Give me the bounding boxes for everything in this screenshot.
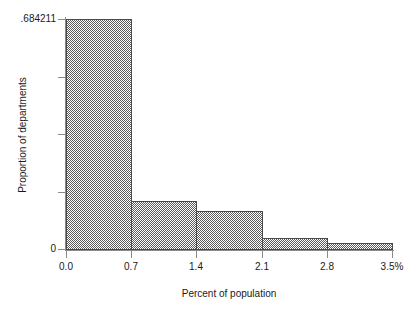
y-axis-tick-1: [58, 192, 65, 193]
y-axis-tick-label-top: .684211: [0, 14, 56, 24]
histogram-bar-2: [196, 211, 263, 250]
histogram-bar-1: [131, 201, 197, 250]
histogram-bar-0: [66, 19, 132, 250]
x-axis-tick-3: [262, 251, 263, 258]
x-axis-tick-1: [131, 251, 132, 258]
x-axis-tick-label-4: 2.8: [320, 261, 334, 272]
x-axis-tick-0: [66, 251, 67, 258]
y-axis-tick-3: [58, 77, 65, 78]
y-axis-tick-label-zero-wrap: 0: [0, 244, 56, 254]
y-axis-tick-2: [58, 134, 65, 135]
x-axis-title: Percent of population: [182, 288, 277, 300]
y-axis-tick-label-zero: 0: [0, 244, 56, 254]
x-axis-tick-label-3: 2.1: [255, 261, 269, 272]
histogram-bar-3: [262, 238, 328, 250]
x-axis-tick-label-0: 0.0: [59, 261, 73, 272]
y-axis-tick-label-top-wrap: .684211: [0, 14, 56, 24]
x-axis-tick-2: [196, 251, 197, 258]
x-axis-tick-label-1: 0.7: [124, 261, 138, 272]
y-axis-tick-0: [58, 249, 65, 250]
histogram-chart: .684211 0 0.0 0.7 1.4 2.1 2.8 3.5% Perce…: [0, 0, 419, 312]
x-axis-line: [65, 250, 394, 251]
histogram-bar-4: [327, 243, 393, 250]
x-axis-tick-4: [327, 251, 328, 258]
x-axis-tick-label-2: 1.4: [189, 261, 203, 272]
x-axis-tick-5: [392, 251, 393, 258]
x-axis-tick-label-5: 3.5%: [381, 261, 404, 272]
y-axis-tick-4: [58, 19, 65, 20]
y-axis-title: Proportion of departments: [17, 60, 29, 210]
